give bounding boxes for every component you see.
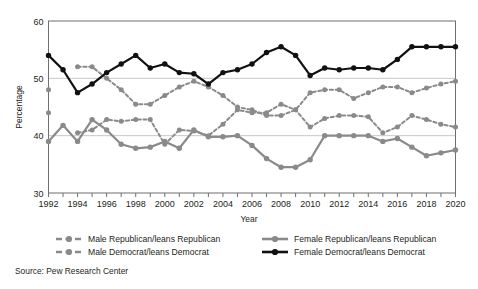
- data-point: [220, 93, 225, 98]
- data-point: [75, 130, 80, 135]
- legend-label: Male Republican/leans Republican: [88, 234, 221, 244]
- data-point: [337, 133, 342, 138]
- data-point: [337, 67, 342, 72]
- data-point: [395, 136, 400, 141]
- data-point: [337, 87, 342, 92]
- data-point: [438, 122, 443, 127]
- data-point: [46, 53, 51, 58]
- data-point: [453, 147, 458, 152]
- data-point: [395, 84, 400, 89]
- data-point: [46, 87, 51, 92]
- data-point: [366, 90, 371, 95]
- data-point: [279, 113, 284, 118]
- data-point: [453, 44, 458, 49]
- data-point: [133, 146, 138, 151]
- data-point: [293, 53, 298, 58]
- x-tick-label: 2006: [242, 199, 262, 209]
- data-point: [148, 65, 153, 70]
- x-tick-label: 1994: [68, 199, 88, 209]
- legend-label: Female Republican/leans Republican: [294, 234, 437, 244]
- y-axis-title: Percentage: [14, 85, 24, 129]
- data-point: [119, 87, 124, 92]
- data-point: [177, 70, 182, 75]
- data-point: [278, 165, 283, 170]
- data-point: [148, 102, 153, 107]
- y-tick-label: 60: [33, 17, 43, 27]
- data-point: [118, 142, 123, 147]
- data-point: [89, 117, 94, 122]
- x-tick-label: 2016: [387, 199, 407, 209]
- data-point: [424, 86, 429, 91]
- data-point: [366, 114, 371, 119]
- data-point: [453, 125, 458, 130]
- data-point: [206, 81, 211, 86]
- source-note: Source: Pew Research Center: [15, 266, 128, 276]
- data-point: [380, 84, 385, 89]
- data-point: [46, 139, 51, 144]
- legend-swatch-marker: [66, 249, 72, 255]
- data-point: [133, 117, 138, 122]
- y-tick-label: 30: [33, 189, 43, 199]
- data-point: [351, 65, 356, 70]
- x-tick-label: 2008: [271, 199, 291, 209]
- data-point: [206, 134, 211, 139]
- data-point: [380, 130, 385, 135]
- data-point: [307, 73, 312, 78]
- x-tick-label: 2004: [213, 199, 233, 209]
- data-point: [409, 113, 414, 118]
- data-point: [264, 50, 269, 55]
- x-axis-tick-labels: 1992199419961998200020022004200620082010…: [38, 199, 465, 209]
- data-point: [46, 110, 51, 115]
- data-point: [264, 156, 269, 161]
- data-point: [177, 146, 182, 151]
- data-point: [235, 67, 240, 72]
- data-point: [438, 82, 443, 87]
- data-point: [75, 139, 80, 144]
- data-point: [380, 139, 385, 144]
- x-tick-label: 2002: [184, 199, 204, 209]
- data-point: [162, 93, 167, 98]
- data-point: [293, 107, 298, 112]
- data-point: [453, 79, 458, 84]
- y-tick-label: 40: [33, 131, 43, 141]
- data-point: [90, 64, 95, 69]
- data-point: [351, 133, 356, 138]
- data-point: [264, 110, 269, 115]
- data-point: [409, 44, 414, 49]
- x-tick-label: 2014: [358, 199, 378, 209]
- legend-label: Male Democrat/leans Democrat: [88, 247, 209, 257]
- data-point: [60, 67, 65, 72]
- data-point: [308, 90, 313, 95]
- data-point: [75, 64, 80, 69]
- data-point: [220, 70, 225, 75]
- x-tick-label: 2000: [155, 199, 175, 209]
- data-point: [191, 79, 196, 84]
- data-point: [249, 143, 254, 148]
- data-point: [119, 119, 124, 124]
- data-point: [278, 44, 283, 49]
- data-point: [148, 117, 153, 122]
- data-point: [337, 113, 342, 118]
- data-point: [162, 139, 167, 144]
- x-axis-title: Year: [240, 214, 257, 224]
- data-point: [104, 76, 109, 81]
- data-point: [177, 84, 182, 89]
- data-point: [220, 134, 225, 139]
- data-point: [424, 153, 429, 158]
- chart-container: 60504030 1992199419961998200020022004200…: [0, 0, 478, 289]
- data-point: [279, 102, 284, 107]
- data-point: [249, 61, 254, 66]
- data-point: [162, 61, 167, 66]
- data-point: [308, 125, 313, 130]
- data-point: [438, 150, 443, 155]
- data-point: [60, 123, 65, 128]
- legend-label: Female Democrat/leans Democrat: [294, 247, 425, 257]
- x-tick-label: 2012: [329, 199, 349, 209]
- x-tick-label: 2018: [416, 199, 436, 209]
- data-point: [351, 113, 356, 118]
- y-tick-label: 50: [33, 74, 43, 84]
- data-point: [395, 57, 400, 62]
- x-tick-label: 2020: [445, 199, 465, 209]
- legend-swatch-marker: [66, 236, 72, 242]
- legend-swatch-marker: [272, 236, 278, 242]
